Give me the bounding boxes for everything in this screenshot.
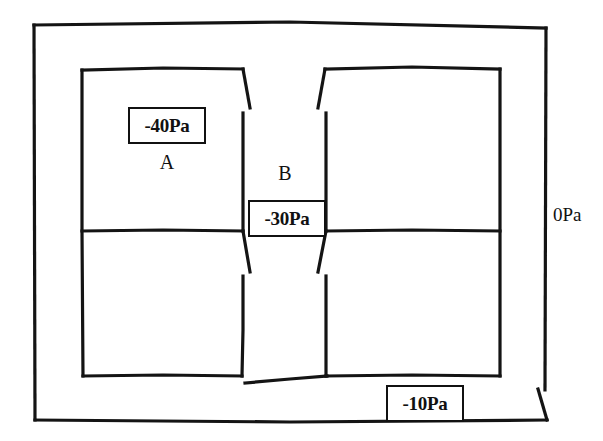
outer-wall-right <box>545 28 546 390</box>
outer-wall-left <box>34 25 35 420</box>
door-leaf-lower-right <box>318 231 326 272</box>
outer-wall-corner-notch <box>538 389 547 420</box>
inner-left-block-walls <box>82 68 243 376</box>
inner-wall-top-right <box>325 67 500 69</box>
vestibule-threshold <box>245 376 327 383</box>
outer-wall-bottom <box>35 420 547 422</box>
door-leaf-vestibule <box>245 376 327 383</box>
inner-wall-bottom-right <box>326 375 500 376</box>
door-leaf-upper-right <box>318 69 325 108</box>
corridor-wall-left-lower <box>242 276 243 376</box>
floor-plan-linework <box>0 0 603 441</box>
inner-right-block-walls <box>325 67 500 376</box>
corridor-right-partition <box>318 69 326 376</box>
floor-plan-diagram: -40Pa A B -30Pa -10Pa 0Pa <box>0 0 603 441</box>
outer-envelope-walls <box>34 22 547 422</box>
outer-wall-top <box>34 22 546 28</box>
inner-wall-top-left <box>82 68 243 70</box>
corridor-left-partition <box>242 69 250 376</box>
inner-wall-bottom-left <box>83 375 242 376</box>
door-leaf-lower-left <box>243 231 250 272</box>
inner-wall-left <box>82 70 83 376</box>
divider-horizontal-right <box>326 230 500 231</box>
door-leaf-upper-left <box>243 69 250 108</box>
divider-horizontal-left <box>82 230 243 231</box>
